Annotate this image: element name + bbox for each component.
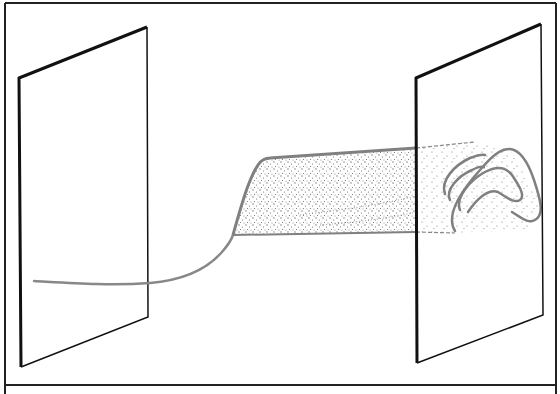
stippled-band — [233, 148, 416, 235]
left-plane — [19, 27, 148, 367]
diagram-stage — [0, 0, 560, 394]
band-tail-line — [34, 235, 233, 284]
